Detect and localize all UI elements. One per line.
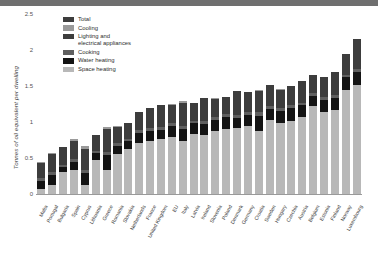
bar-france[interactable] (146, 108, 154, 194)
y-axis-tick-label: 1.5 (25, 83, 33, 89)
bar-segment-lighting-and-electrical-appliances (331, 72, 339, 95)
bar-lithuania[interactable] (92, 135, 100, 194)
bar-segment-space-heating (342, 90, 350, 194)
bar-segment-water-heating (103, 155, 111, 169)
bar-hungary[interactable] (276, 89, 284, 194)
bar-segment-space-heating (353, 85, 361, 194)
bar-segment-lighting-and-electrical-appliances (222, 97, 230, 114)
bar-segment-water-heating (92, 153, 100, 160)
bar-greece[interactable] (103, 127, 111, 194)
bar-belgium[interactable] (309, 75, 317, 194)
bar-norway[interactable] (342, 54, 350, 194)
y-axis-title: Tonnes of oil equivalent per dwelling (12, 43, 19, 193)
bar-ireland[interactable] (200, 98, 208, 194)
bar-malta[interactable] (37, 162, 45, 194)
bar-segment-space-heating (59, 172, 67, 194)
bar-germany[interactable] (244, 92, 252, 194)
bar-segment-space-heating (124, 149, 132, 194)
legend-item-cooking[interactable]: Cooking (63, 49, 183, 56)
y-axis-tick-label: 0 (30, 191, 33, 197)
bar-segment-lighting-and-electrical-appliances (135, 112, 143, 130)
bar-slovenia[interactable] (211, 98, 219, 194)
bar-segment-water-heating (320, 100, 328, 112)
bar-segment-space-heating (287, 121, 295, 194)
bar-portugal[interactable] (48, 153, 56, 194)
bar-luxembourg[interactable] (353, 39, 361, 195)
bar-denmark[interactable] (233, 91, 241, 194)
bar-segment-space-heating (48, 185, 56, 194)
bar-segment-lighting-and-electrical-appliances (81, 149, 89, 171)
bar-spain[interactable] (70, 139, 78, 194)
bar-segment-lighting-and-electrical-appliances (146, 108, 154, 127)
bar-segment-water-heating (157, 130, 165, 139)
legend-swatch-icon (63, 25, 74, 31)
bar-segment-lighting-and-electrical-appliances (168, 105, 176, 124)
bar-czechia[interactable] (287, 86, 295, 194)
bar-netherlands[interactable] (135, 112, 143, 194)
y-axis-tick-label: 0.5 (25, 155, 33, 161)
bar-united-kingdom[interactable] (157, 105, 165, 194)
bar-segment-lighting-and-electrical-appliances (200, 98, 208, 122)
bar-segment-water-heating (342, 77, 350, 89)
legend-item-cooling[interactable]: Cooling (63, 25, 183, 32)
bar-segment-water-heating (309, 96, 317, 106)
bar-slovakia[interactable] (124, 123, 132, 194)
x-axis-tick-label: EU (171, 204, 180, 213)
bar-eu[interactable] (168, 104, 176, 194)
bar-austria[interactable] (298, 81, 306, 194)
bar-segment-water-heating (298, 105, 306, 117)
bar-segment-space-heating (255, 131, 263, 194)
bar-segment-space-heating (222, 129, 230, 194)
bar-segment-water-heating (200, 124, 208, 135)
bar-segment-water-heating (135, 133, 143, 143)
bar-segment-space-heating (211, 131, 219, 194)
legend-label: Space heating (78, 66, 116, 73)
bar-segment-lighting-and-electrical-appliances (211, 99, 219, 117)
bar-segment-space-heating (298, 117, 306, 194)
bar-segment-lighting-and-electrical-appliances (244, 92, 252, 112)
bar-segment-space-heating (146, 141, 154, 194)
bar-segment-water-heating (353, 72, 361, 84)
bar-segment-water-heating (266, 109, 274, 120)
bar-cyprus[interactable] (81, 146, 89, 194)
bar-segment-lighting-and-electrical-appliances (103, 129, 111, 152)
bar-segment-water-heating (48, 175, 56, 186)
bar-sweden[interactable] (266, 85, 274, 194)
legend-item-space-heating[interactable]: Space heating (63, 66, 183, 73)
legend-swatch-icon (63, 58, 74, 64)
bar-estonia[interactable] (320, 77, 328, 194)
legend-item-water-heating[interactable]: Water heating (63, 57, 183, 64)
bar-croatia[interactable] (255, 90, 263, 194)
x-axis-tick-label: Italy (180, 204, 190, 215)
legend-item-total[interactable]: Total (63, 16, 183, 23)
bar-segment-water-heating (222, 117, 230, 129)
bar-segment-water-heating (70, 162, 78, 170)
bar-segment-space-heating (233, 128, 241, 194)
legend-item-lighting-and-electrical-appliances[interactable]: Lighting andelectrical appliances (63, 33, 183, 47)
bar-latvia[interactable] (190, 103, 198, 194)
bar-segment-space-heating (179, 141, 187, 194)
bar-bulgaria[interactable] (59, 147, 67, 194)
bar-italy[interactable] (179, 101, 187, 194)
bar-segment-water-heating (37, 181, 45, 189)
bar-romania[interactable] (113, 126, 121, 194)
bar-poland[interactable] (222, 97, 230, 194)
bar-segment-water-heating (244, 115, 252, 126)
bar-segment-water-heating (168, 126, 176, 137)
bar-segment-space-heating (331, 110, 339, 194)
bar-segment-space-heating (113, 154, 121, 194)
bar-segment-space-heating (81, 185, 89, 194)
bar-segment-water-heating (233, 118, 241, 128)
bar-segment-space-heating (168, 137, 176, 194)
bar-segment-lighting-and-electrical-appliances (320, 77, 328, 96)
bar-segment-space-heating (320, 112, 328, 194)
bar-segment-water-heating (190, 123, 198, 133)
bar-segment-space-heating (244, 126, 252, 194)
bar-segment-lighting-and-electrical-appliances (37, 163, 45, 178)
bar-segment-water-heating (81, 173, 89, 185)
bar-finland[interactable] (331, 72, 339, 194)
x-axis-line (36, 194, 362, 195)
bar-segment-lighting-and-electrical-appliances (59, 147, 67, 164)
legend-label: Lighting andelectrical appliances (78, 33, 131, 47)
y-axis-tick-label: 2.5 (25, 11, 33, 17)
